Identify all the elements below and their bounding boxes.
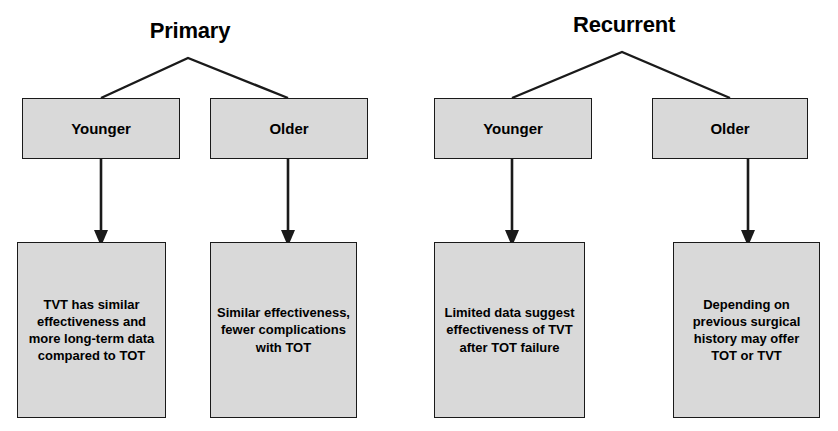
recommendation-text: TVT has similar effectiveness and more l… bbox=[24, 296, 159, 365]
flowchart-diagram: Primary Recurrent Younger Older Younger … bbox=[0, 0, 838, 431]
connector-recurrent-branches bbox=[512, 52, 730, 98]
recommendation-text: Limited data suggest effectiveness of TV… bbox=[441, 304, 578, 355]
recommendation-primary-older[interactable]: Similar effectiveness, fewer complicatio… bbox=[210, 242, 357, 418]
node-recurrent-younger[interactable]: Younger bbox=[434, 98, 592, 159]
node-label: Older bbox=[269, 120, 308, 137]
node-recurrent-older[interactable]: Older bbox=[652, 98, 808, 159]
node-primary-older[interactable]: Older bbox=[210, 98, 368, 159]
connector-primary-branches bbox=[101, 58, 288, 98]
recommendation-text: Depending on previous surgical history m… bbox=[680, 296, 813, 365]
node-label: Younger bbox=[483, 120, 543, 137]
node-primary-younger[interactable]: Younger bbox=[22, 98, 180, 159]
recommendation-recurrent-older[interactable]: Depending on previous surgical history m… bbox=[673, 242, 820, 418]
recommendation-text: Similar effectiveness, fewer complicatio… bbox=[217, 304, 350, 355]
group-title-recurrent: Recurrent bbox=[573, 12, 675, 38]
node-label: Younger bbox=[71, 120, 131, 137]
recommendation-recurrent-younger[interactable]: Limited data suggest effectiveness of TV… bbox=[434, 242, 585, 418]
group-title-primary: Primary bbox=[150, 18, 231, 44]
recommendation-primary-younger[interactable]: TVT has similar effectiveness and more l… bbox=[17, 242, 166, 418]
node-label: Older bbox=[710, 120, 749, 137]
